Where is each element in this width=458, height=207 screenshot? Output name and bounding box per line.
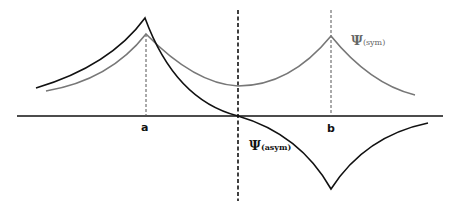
psi-asym-subscript: (asym) [261, 142, 292, 152]
psi-asym-symbol: Ψ [249, 138, 261, 153]
psi-asym-label: Ψ(asym) [249, 138, 291, 153]
psi-sym-subscript: (sym) [363, 38, 385, 47]
wavefunction-diagram: a b Ψ(sym) Ψ(asym) [0, 0, 458, 207]
position-label-a: a [141, 121, 148, 134]
psi-sym-label: Ψ(sym) [351, 33, 385, 48]
psi-sym-symbol: Ψ [351, 33, 363, 48]
position-label-b: b [327, 122, 335, 135]
